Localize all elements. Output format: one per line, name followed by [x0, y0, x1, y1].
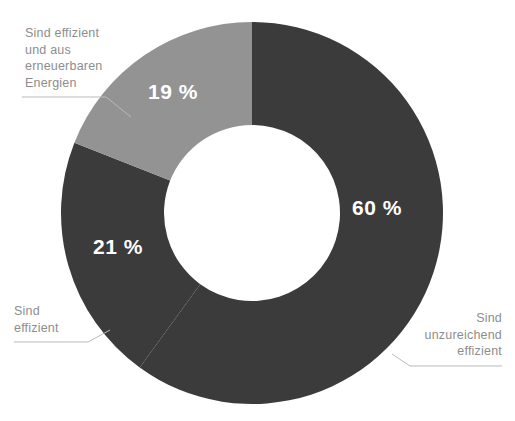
callout-label-efficient: Sind effizient	[14, 303, 134, 336]
value-label-unzureichend-effizient: 60 %	[352, 196, 402, 220]
callout-label-insufficient: Sind unzureichend effizient	[375, 310, 502, 360]
value-label-effizient: 21 %	[93, 235, 143, 259]
value-label-erneuerbare-energien: 19 %	[148, 80, 198, 104]
chart-canvas: Sind effizient und aus erneuerbaren Ener…	[0, 0, 515, 421]
